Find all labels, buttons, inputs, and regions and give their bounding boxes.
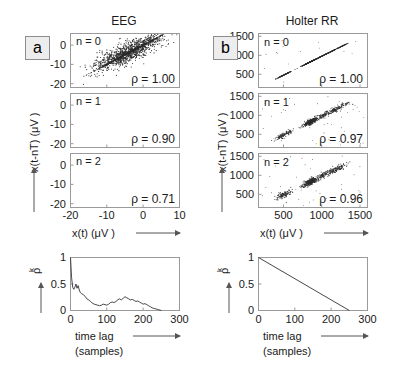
eeg-xtick-3: 10	[173, 209, 185, 221]
panel-letter-b: b	[213, 36, 238, 60]
eeg-panel-label-0: n = 0	[76, 35, 101, 47]
holter-xaxis-label: x(t) (μV )	[260, 227, 303, 239]
eeg-panel-label-2: n = 2	[76, 155, 101, 167]
holter-rho-2: ρ = 0.96	[319, 192, 363, 206]
eeg-corr-xtick-2: 200	[134, 313, 152, 325]
holter-ytick-2-0: 1500	[230, 150, 254, 162]
eeg-panel-label-1: n = 1	[76, 95, 101, 107]
holter-corr-xtick-1: 100	[286, 313, 304, 325]
eeg-rho-2: ρ = 0.71	[131, 192, 175, 206]
holter-corr-xlabel-line1: time lag	[263, 330, 302, 342]
eeg-autocorrelation-panel: 1 0.5 0	[51, 251, 180, 316]
holter-ytick-2-1: 1000	[230, 169, 254, 181]
eeg-ytick-2-1: -10	[50, 178, 66, 190]
holter-yaxis-label: x(t-nT) (μV )	[216, 113, 228, 173]
eeg-corr-xtick-1: 100	[98, 313, 116, 325]
holter-corr-xlabel-line2: (samples)	[263, 345, 311, 357]
column-title-holter: Holter RR	[286, 14, 339, 28]
eeg-ytick-2-0: 0	[60, 159, 66, 171]
holter-ytick-1-2: 500	[236, 128, 254, 140]
eeg-corr-xtick-3: 300	[170, 313, 188, 325]
eeg-corr-xtick-0: 0	[67, 313, 73, 325]
eeg-xtick-2: 0	[140, 209, 146, 221]
eeg-corr-xlabel-line2: (samples)	[75, 345, 123, 357]
eeg-yaxis-label: x(t-nT) (μV )	[28, 113, 40, 173]
holter-xtick-1: 1000	[309, 209, 333, 221]
holter-ytick-0-2: 500	[236, 68, 254, 80]
eeg-ytick-1-1: -10	[50, 118, 66, 130]
holter-corr-xtick-2: 200	[322, 313, 340, 325]
eeg-xtick-1: -10	[99, 209, 115, 221]
holter-autocorrelation-panel: 1 0.5 0	[239, 251, 368, 316]
column-title-eeg: EEG	[111, 14, 136, 28]
holter-rho-1: ρ = 0.97	[319, 132, 363, 146]
holter-ytick-1-1: 1000	[230, 109, 254, 121]
eeg-rho-0: ρ = 1.00	[131, 72, 175, 86]
holter-scatter-panel-0: 1500 1000 500 n = 0 ρ = 1.00	[230, 30, 368, 88]
holter-scatter-panel-1: 1500 1000 500 n = 1 ρ = 0.97	[230, 90, 368, 148]
panel-letter-a: a	[25, 36, 50, 60]
holter-corr-ytick-2: 0	[248, 304, 254, 316]
eeg-corr-ytick-0: 1	[60, 251, 66, 263]
holter-ytick-2-2: 500	[236, 188, 254, 200]
eeg-xtick-0: -20	[63, 209, 79, 221]
holter-xtick-0: 500	[274, 209, 292, 221]
holter-corr-ytick-1: 0.5	[239, 278, 254, 290]
holter-rho-0: ρ = 1.00	[319, 72, 363, 86]
figure-root: a b EEG Holter RR 0 -10 -20 n = 0 ρ = 1.…	[0, 0, 395, 381]
eeg-rho-1: ρ = 0.90	[131, 132, 175, 146]
holter-scatter-panel-2: 1500 1000 500 n = 2 ρ = 0.96	[230, 150, 368, 208]
holter-xtick-2: 1500	[348, 209, 372, 221]
holter-corr-ytick-0: 1	[248, 251, 254, 263]
eeg-ytick-0-0: 0	[60, 39, 66, 51]
eeg-xaxis-label: x(t) (μV )	[72, 227, 115, 239]
holter-panel-label-1: n = 1	[264, 96, 289, 108]
holter-panel-label-2: n = 2	[264, 156, 289, 168]
eeg-ytick-1-0: 0	[60, 99, 66, 111]
eeg-ytick-0-1: -10	[50, 58, 66, 70]
eeg-corr-ytick-2: 0	[60, 304, 66, 316]
eeg-ytick-2-2: -20	[50, 198, 66, 210]
holter-ytick-1-0: 1500	[230, 90, 254, 102]
holter-panel-label-0: n = 0	[264, 36, 289, 48]
eeg-ytick-1-2: -20	[50, 138, 66, 150]
holter-corr-xtick-3: 300	[358, 313, 376, 325]
eeg-corr-xlabel-line1: time lag	[75, 330, 114, 342]
holter-corr-xtick-0: 0	[255, 313, 261, 325]
figure-canvas: EEG Holter RR 0 -10 -20 n = 0 ρ = 1.00 0…	[0, 0, 395, 381]
eeg-corr-ytick-1: 0.5	[51, 278, 66, 290]
eeg-ytick-0-2: -20	[50, 78, 66, 90]
